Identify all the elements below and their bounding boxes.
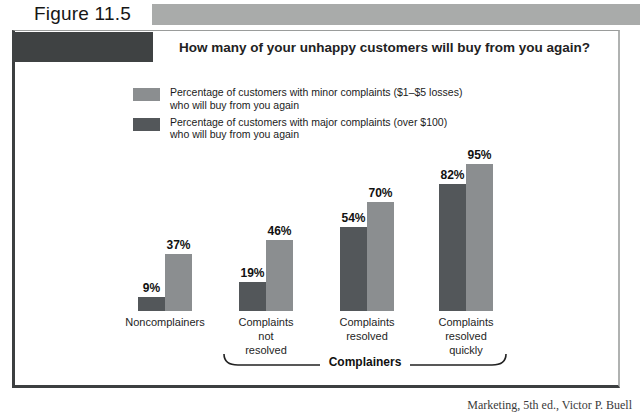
bar-value-label: 54% <box>341 211 365 225</box>
bracket-label: Complainers <box>220 355 510 369</box>
bar-value-label: 37% <box>166 238 190 252</box>
top-accent-banner <box>152 4 640 25</box>
bar-minor: 70% <box>367 202 394 311</box>
bar-value-label: 46% <box>267 224 291 238</box>
bar-value-label: 70% <box>368 186 392 200</box>
bar-minor: 37% <box>165 254 192 311</box>
bar-value-label: 95% <box>467 148 491 162</box>
plot-area: 9% 37% Noncomplainers 19% 46% Complaints… <box>15 31 623 386</box>
bar-major: 54% <box>340 227 367 311</box>
bar-major: 82% <box>439 184 466 311</box>
bar-value-label: 82% <box>440 168 464 182</box>
bar-minor: 46% <box>266 240 293 311</box>
bar-major: 9% <box>138 297 165 311</box>
bar-major: 19% <box>239 282 266 311</box>
bar-pair: 82% 95% <box>406 141 526 311</box>
figure-label: Figure 11.5 <box>34 3 131 25</box>
chart-frame: How many of your unhappy customers will … <box>12 30 620 388</box>
bar-value-label: 19% <box>240 266 264 280</box>
category-label: Complaints resolved quickly <box>406 316 526 357</box>
bar-minor: 95% <box>466 164 493 311</box>
source-caption-clipped: Marketing, 5th ed., Victor P. Buell <box>467 398 632 413</box>
complainers-bracket: Complainers <box>220 353 510 371</box>
bar-value-label: 9% <box>143 281 160 295</box>
bar-group-complaints-resolved-quickly: 82% 95% Complaints resolved quickly <box>406 141 526 357</box>
